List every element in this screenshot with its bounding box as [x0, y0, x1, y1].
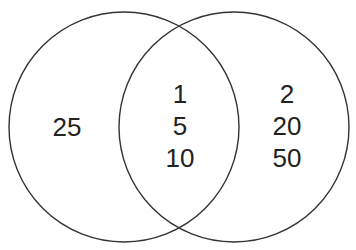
left-only-value: 25 — [53, 114, 82, 140]
right-circle — [119, 12, 349, 242]
intersection-value: 5 — [173, 113, 187, 139]
right-only-value: 50 — [273, 145, 302, 171]
right-only-value: 2 — [280, 81, 294, 107]
right-only-value: 20 — [273, 113, 302, 139]
left-circle — [9, 12, 239, 242]
intersection-value: 1 — [173, 81, 187, 107]
intersection-value: 10 — [166, 145, 195, 171]
venn-diagram: 25 1 5 10 2 20 50 — [0, 0, 356, 250]
